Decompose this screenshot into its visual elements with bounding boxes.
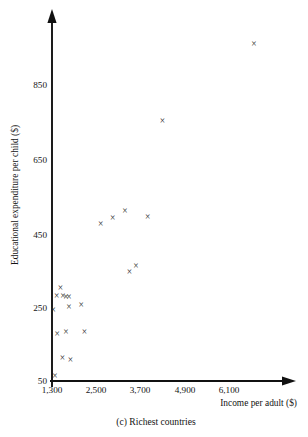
data-point-marker: × [68,355,73,365]
data-point-marker: × [160,116,165,126]
y-tick-labels: 850 650 450 250 50 [33,80,47,386]
data-point-marker: × [251,39,256,49]
scatter-plot-canvas: 850 650 450 250 50 1,300 2,500 3,700 4,9… [0,0,308,437]
y-tick-label: 850 [33,80,47,90]
data-point-marker: × [54,329,59,339]
y-tick-label: 450 [33,230,47,240]
data-point-marker: × [127,267,132,277]
x-tick-label: 3,700 [130,385,151,395]
y-axis-arrow-icon [47,9,56,23]
data-point-marker: × [82,327,87,337]
data-point-marker: × [110,213,115,223]
data-point-marker: × [52,371,57,381]
x-tick-label: 1,300 [42,385,63,395]
data-point-marker: × [66,302,71,312]
y-tick-label: 250 [33,303,47,313]
data-point-marker: × [145,212,150,222]
x-tick-label: 2,500 [86,385,107,395]
data-point-marker: × [78,300,83,310]
y-axis-title: Educational expenditure per child ($) [10,125,21,265]
data-point-marker: × [50,305,55,315]
data-point-marker: × [63,327,68,337]
figure-caption: (c) Richest countries [116,416,196,428]
data-point-marker: × [133,261,138,271]
x-tick-label: 4,900 [175,385,196,395]
x-tick-labels: 1,300 2,500 3,700 4,900 6,100 [42,385,240,395]
data-point-layer: ×××××××××××××××××××××× [50,39,256,381]
x-tick-label: 6,100 [219,385,240,395]
data-point-marker: × [98,219,103,229]
data-point-marker: × [60,353,65,363]
x-axis-arrow-icon [282,377,296,386]
caption-area: (c) Richest countries [0,408,308,437]
data-point-marker: × [122,206,127,216]
scatter-plot-figure: 850 650 450 250 50 1,300 2,500 3,700 4,9… [0,0,308,437]
y-tick-label: 650 [33,155,47,165]
